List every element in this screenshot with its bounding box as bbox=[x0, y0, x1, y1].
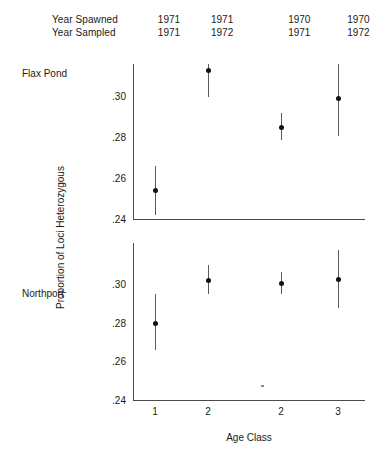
figure-error-bar-chart: Year Spawned 1971 1971 1970 1970 Year Sa… bbox=[0, 0, 381, 472]
data-point-marker bbox=[336, 277, 341, 282]
stray-mark bbox=[261, 385, 264, 387]
data-point-marker bbox=[206, 278, 211, 283]
header-sampled-value-4: 1972 bbox=[336, 27, 381, 38]
header-label-year-sampled: Year Sampled bbox=[0, 27, 150, 38]
x-tick-label: 3 bbox=[328, 406, 348, 418]
plot-panel-flax-pond bbox=[133, 64, 365, 220]
y-tick-label: .24 bbox=[92, 396, 126, 406]
data-point-marker bbox=[153, 321, 158, 326]
y-tick-label: .30 bbox=[92, 280, 126, 290]
header-sampled-value-1: 1971 bbox=[146, 27, 191, 38]
x-tick-label: 1 bbox=[145, 406, 165, 418]
header-spawned-value-2: 1971 bbox=[200, 14, 245, 25]
plot-panel-northport bbox=[133, 243, 365, 401]
x-tick-label: 2 bbox=[271, 406, 291, 418]
header-sampled-value-2: 1972 bbox=[200, 27, 245, 38]
header-row-year-spawned: Year Spawned 1971 1971 1970 1970 bbox=[0, 14, 381, 27]
x-axis-line-bottom bbox=[133, 400, 365, 401]
y-tick-label: .28 bbox=[92, 133, 126, 143]
y-axis-line-top bbox=[133, 64, 134, 220]
y-tick-label: .30 bbox=[92, 92, 126, 102]
data-point-marker bbox=[336, 96, 341, 101]
x-axis-title: Age Class bbox=[133, 432, 365, 443]
y-axis-line-bottom bbox=[133, 243, 134, 401]
data-point-marker bbox=[153, 188, 158, 193]
header-spawned-value-3: 1970 bbox=[277, 14, 322, 25]
x-tick-label: 2 bbox=[198, 406, 218, 418]
panel-label-flax-pond: Flax Pond bbox=[22, 68, 67, 79]
x-axis-ticklabels: 1223 bbox=[133, 406, 365, 418]
data-point-marker bbox=[279, 125, 284, 130]
data-point-marker bbox=[279, 281, 284, 286]
y-axis-title: Proportion of Loci Heterozygous bbox=[55, 128, 66, 348]
header-sampled-value-3: 1971 bbox=[277, 27, 322, 38]
x-axis-line-top bbox=[133, 219, 365, 220]
y-tick-label: .28 bbox=[92, 319, 126, 329]
header-table: Year Spawned 1971 1971 1970 1970 Year Sa… bbox=[0, 14, 381, 40]
data-point-marker bbox=[206, 68, 211, 73]
y-tick-label: .24 bbox=[92, 215, 126, 225]
header-spawned-value-4: 1970 bbox=[336, 14, 381, 25]
header-label-year-spawned: Year Spawned bbox=[0, 14, 150, 25]
y-tick-label: .26 bbox=[92, 357, 126, 367]
header-row-year-sampled: Year Sampled 1971 1972 1971 1972 bbox=[0, 27, 381, 40]
header-spawned-value-1: 1971 bbox=[146, 14, 191, 25]
y-tick-label: .26 bbox=[92, 174, 126, 184]
